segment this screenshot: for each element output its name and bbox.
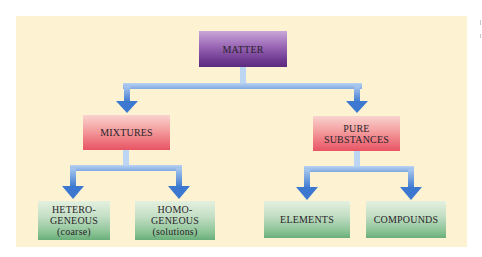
node-pure-substances-line2: SUBSTANCES: [324, 134, 389, 145]
node-homogeneous: HOMO- GENEOUS (solutions): [135, 201, 215, 240]
scan-artifact: [480, 20, 481, 25]
node-homogeneous-line1: HOMO-: [158, 204, 193, 215]
node-compounds: COMPOUNDS: [366, 201, 446, 238]
node-homogeneous-line3: (solutions): [153, 226, 198, 237]
node-mixtures-label: MIXTURES: [100, 127, 153, 138]
scan-artifact: [480, 34, 481, 38]
arrow-down-icon: [62, 186, 84, 199]
connector-mixtures: [62, 150, 190, 199]
arrow-down-icon: [116, 101, 138, 113]
connector-pure-substances: [296, 151, 422, 200]
node-homogeneous-line2: GENEOUS: [151, 215, 199, 226]
node-matter-label: MATTER: [222, 44, 263, 55]
node-pure-substances-line1: PURE: [343, 123, 369, 134]
node-heterogeneous-line2: GENEOUS: [50, 215, 98, 226]
node-matter: MATTER: [199, 31, 287, 67]
node-mixtures: MIXTURES: [83, 115, 170, 150]
node-heterogeneous-line3: (coarse): [57, 226, 91, 237]
node-heterogeneous: HETERO- GENEOUS (coarse): [38, 201, 110, 240]
node-pure-substances: PURE SUBSTANCES: [313, 116, 400, 151]
node-heterogeneous-line1: HETERO-: [52, 204, 96, 215]
arrow-down-icon: [400, 187, 422, 200]
node-elements-label: ELEMENTS: [280, 214, 334, 225]
arrow-down-icon: [296, 187, 318, 200]
node-elements: ELEMENTS: [264, 201, 350, 238]
arrow-down-icon: [346, 101, 368, 113]
node-compounds-label: COMPOUNDS: [374, 214, 439, 225]
connector-matter: [116, 67, 368, 113]
arrow-down-icon: [168, 186, 190, 199]
